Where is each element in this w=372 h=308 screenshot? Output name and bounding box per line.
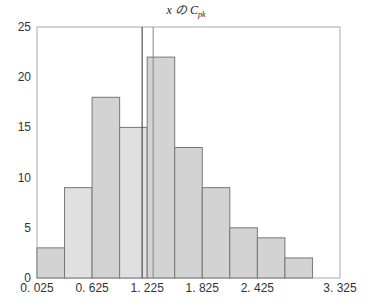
histogram-bar [120, 127, 148, 278]
histogram-bar [92, 97, 120, 278]
histogram-bar [257, 238, 285, 278]
histogram: 05101520250. 0250. 6251. 2251. 8252. 425… [0, 0, 372, 308]
histogram-bar [175, 147, 203, 278]
histogram-bar [202, 188, 230, 278]
histogram-bar [37, 248, 65, 278]
y-tick-label: 10 [18, 171, 32, 185]
x-tick-label: 1. 825 [186, 281, 220, 295]
x-tick-label: 2. 425 [241, 281, 275, 295]
histogram-bar [285, 258, 313, 278]
histogram-bar [230, 228, 258, 278]
x-tick-label: 0. 025 [20, 281, 54, 295]
x-tick-label: 1. 225 [130, 281, 164, 295]
y-tick-label: 25 [18, 20, 32, 34]
y-tick-label: 15 [18, 120, 32, 134]
y-tick-label: 5 [24, 221, 31, 235]
x-tick-label: 3. 325 [323, 281, 357, 295]
histogram-bar [65, 188, 93, 278]
histogram-bar [147, 57, 175, 278]
x-tick-label: 0. 625 [75, 281, 109, 295]
y-tick-label: 20 [18, 70, 32, 84]
